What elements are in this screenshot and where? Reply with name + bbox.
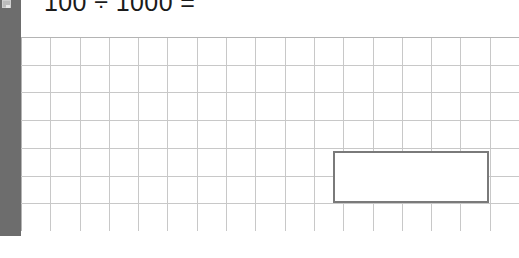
app-tile-icon-notch <box>6 5 10 8</box>
worksheet-screen: 100 ÷ 1000 = <box>0 0 519 258</box>
answer-input-box[interactable] <box>333 151 489 203</box>
app-tile-icon[interactable] <box>2 0 11 8</box>
problem-prompt: 100 ÷ 1000 = <box>44 0 195 17</box>
left-toolbar-rail[interactable] <box>0 0 21 236</box>
bottom-strip <box>0 236 519 258</box>
answer-input-value <box>335 153 487 201</box>
